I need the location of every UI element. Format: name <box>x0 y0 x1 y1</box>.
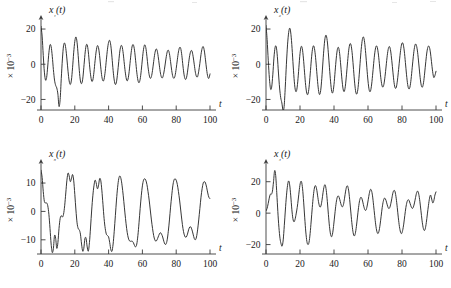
x-tick-label: 100 <box>429 115 444 125</box>
scale-annotation: × 10−3 <box>5 197 16 222</box>
y-tick-label: −10 <box>21 235 36 245</box>
chart-x4: −20020020406080100x₄(t)t× 10−3 <box>225 144 451 288</box>
y-axis-label: x₁(t) <box>48 4 66 18</box>
x-axis-label: t <box>445 243 448 253</box>
y-tick-label: −20 <box>246 240 261 250</box>
x-tick-label: 20 <box>70 115 80 125</box>
x-axis-label: t <box>445 99 448 109</box>
data-line-x3 <box>41 170 210 252</box>
y-tick-label: 10 <box>26 178 36 188</box>
y-tick-label: 0 <box>31 60 36 70</box>
x-tick-label: 20 <box>295 115 305 125</box>
x-tick-label: 0 <box>264 259 269 269</box>
x-tick-label: 40 <box>329 115 339 125</box>
x-tick-label: 40 <box>104 259 114 269</box>
scale-annotation: × 10−3 <box>230 197 241 222</box>
scale-annotation: × 10−3 <box>230 53 241 78</box>
scale-annotation: × 10−3 <box>5 53 16 78</box>
x-tick-label: 60 <box>363 259 373 269</box>
x-tick-label: 60 <box>138 259 148 269</box>
x-tick-label: 80 <box>171 115 181 125</box>
x-tick-label: 80 <box>397 259 407 269</box>
x-tick-label: 0 <box>39 115 44 125</box>
y-tick-label: 20 <box>251 24 261 34</box>
y-tick-label: 0 <box>31 207 36 217</box>
y-tick-label: −20 <box>21 95 36 105</box>
panel-top-left: −20020020406080100x₁(t)t× 10−3 <box>0 0 225 144</box>
x-tick-label: 20 <box>295 259 305 269</box>
x-tick-label: 80 <box>171 259 181 269</box>
chart-x2: −20020020406080100x₂(t)t× 10−3 <box>225 0 451 144</box>
svg-text:× 10−3: × 10−3 <box>230 197 241 222</box>
data-line-x2 <box>266 26 436 111</box>
x-tick-label: 100 <box>429 259 444 269</box>
data-line-x4 <box>266 170 436 246</box>
y-tick-label: −20 <box>246 95 261 105</box>
svg-text:× 10−3: × 10−3 <box>5 197 16 222</box>
x-axis-label: t <box>219 99 222 109</box>
x-tick-label: 100 <box>203 259 218 269</box>
x-tick-label: 0 <box>39 259 44 269</box>
x-tick-label: 60 <box>138 115 148 125</box>
svg-text:× 10−3: × 10−3 <box>230 53 241 78</box>
y-tick-label: 0 <box>256 60 261 70</box>
chart-x3: −10010020406080100x₃(t)t× 10−3 <box>0 144 225 288</box>
figure-panel-grid: −20020020406080100x₁(t)t× 10−3 −20020020… <box>0 0 451 288</box>
y-tick-label: 20 <box>26 24 36 34</box>
y-tick-label: 20 <box>251 177 261 187</box>
panel-bottom-right: −20020020406080100x₄(t)t× 10−3 <box>225 144 451 288</box>
x-tick-label: 80 <box>397 115 407 125</box>
panel-bottom-left: −10010020406080100x₃(t)t× 10−3 <box>0 144 225 288</box>
chart-x1: −20020020406080100x₁(t)t× 10−3 <box>0 0 225 144</box>
y-axis-label: x₄(t) <box>273 148 291 162</box>
svg-text:× 10−3: × 10−3 <box>5 53 16 78</box>
x-tick-label: 100 <box>203 115 218 125</box>
x-tick-label: 60 <box>363 115 373 125</box>
x-tick-label: 20 <box>70 259 80 269</box>
panel-top-right: −20020020406080100x₂(t)t× 10−3 <box>225 0 451 144</box>
y-axis-label: x₂(t) <box>273 4 291 18</box>
y-tick-label: 0 <box>256 209 261 219</box>
x-tick-label: 0 <box>264 115 269 125</box>
y-axis-label: x₃(t) <box>48 148 66 162</box>
x-axis-label: t <box>219 243 222 253</box>
x-tick-label: 40 <box>104 115 114 125</box>
data-line-x1 <box>41 26 210 106</box>
x-tick-label: 40 <box>329 259 339 269</box>
